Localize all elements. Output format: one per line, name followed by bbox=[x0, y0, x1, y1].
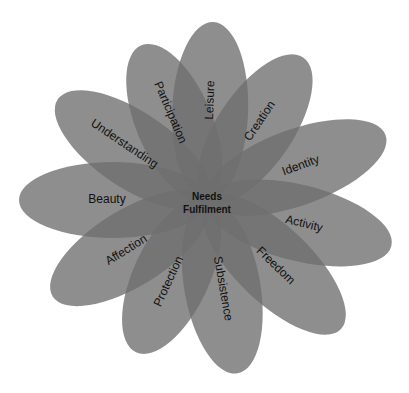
petal-label-leisure: Leisure bbox=[202, 80, 217, 120]
needs-flower-diagram: LeisureCreationIdentityActivityFreedomSu… bbox=[0, 0, 409, 393]
center-label-line2: Fulfilment bbox=[183, 204, 231, 215]
petal-label-beauty: Beauty bbox=[88, 192, 125, 206]
center-label-line1: Needs bbox=[192, 191, 222, 202]
